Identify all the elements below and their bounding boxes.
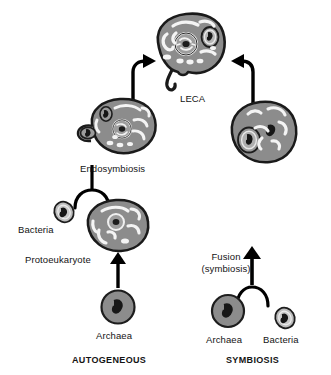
organelle-nucleus-leca: [175, 33, 197, 55]
diagram-canvas: LECA Endosymbiosis Bacteria Protoeukaryo…: [0, 0, 331, 375]
cell-endosymbiosis-intermediate: [78, 99, 156, 153]
organelle-vesicle-proto: [121, 238, 129, 243]
organelle-nucleus-proto: [108, 214, 124, 230]
arrow-archaea-to-protoeukaryote: [110, 252, 126, 288]
label-leca: LECA: [180, 93, 205, 104]
organelle-engulfed-bacterium: [81, 127, 96, 138]
label-fusion-line1: Fusion: [200, 251, 252, 263]
organelle-mitochondrion-leca: [202, 27, 219, 47]
cell-fusion: [232, 102, 296, 162]
cell-bacteria-left: [51, 198, 78, 225]
evolution-diagram-graphics: [0, 0, 331, 375]
label-pathway-autogeneous: AUTOGENEOUS: [72, 355, 146, 366]
label-bacteria-right: Bacteria: [263, 334, 299, 345]
organelle-mitochondrion-endo: [100, 107, 112, 121]
label-pathway-symbiosis: SYMBIOSIS: [226, 355, 279, 366]
cell-leca: [158, 14, 225, 90]
cell-archaea-right: [212, 295, 244, 327]
organelle-engulfed-bacterium-fusion: [238, 128, 260, 153]
label-archaea-left: Archaea: [96, 330, 132, 341]
cell-protoeukaryote: [88, 200, 148, 251]
arrow-fusion-to-leca: [231, 54, 253, 103]
label-endosymbiosis: Endosymbiosis: [80, 163, 145, 174]
label-fusion-line2: (symbiosis): [194, 263, 258, 275]
label-archaea-right: Archaea: [206, 334, 242, 345]
label-protoeukaryote: Protoeukaryote: [25, 254, 91, 265]
cell-archaea-left: [102, 291, 135, 324]
cell-bacteria-right: [272, 304, 299, 332]
label-bacteria-left: Bacteria: [18, 224, 54, 235]
arrow-endosymbiosis-to-leca: [133, 54, 156, 101]
